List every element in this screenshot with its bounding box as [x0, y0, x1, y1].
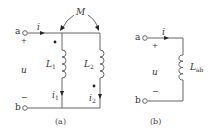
mutual-arrow-left [62, 15, 74, 29]
mutual-arrowhead-left [60, 25, 65, 31]
terminal-b-node [23, 106, 28, 111]
figure-b-caption: (b) [150, 117, 161, 126]
circuit-diagram [0, 0, 215, 139]
current-i-label-b: i [162, 28, 165, 37]
inductor-l1-label: L1 [46, 60, 56, 70]
polarity-dot-l2 [93, 85, 96, 88]
current-i-label: i [37, 23, 40, 32]
terminal-a-label: a [15, 27, 20, 36]
terminal-b-label-b: b [135, 96, 141, 105]
current-i2-label: i2 [89, 94, 96, 104]
terminal-b-node-b [143, 99, 148, 104]
terminal-b-label: b [15, 103, 21, 112]
terminal-a-label-b: a [135, 33, 140, 42]
polarity-dot-l1 [54, 41, 57, 44]
inductor-lab-label: Lab [190, 63, 203, 73]
mutual-m-label: M [76, 8, 85, 17]
minus-sign-b: − [152, 88, 159, 96]
terminal-a-node-b [143, 36, 148, 41]
inductor-l2-label: L2 [84, 60, 94, 70]
current-i1-label: i1 [52, 91, 59, 101]
inductor-lab-coil [179, 55, 183, 80]
minus-sign: − [21, 94, 28, 102]
current-i-arrow [40, 31, 45, 35]
voltage-u-label-b: u [152, 68, 158, 77]
inductor-l2-coil [100, 50, 104, 78]
plus-sign-b: + [152, 43, 158, 50]
figure-a-caption: (a) [55, 117, 66, 126]
voltage-u-label: u [21, 66, 27, 75]
current-i2-arrow [98, 94, 102, 99]
terminal-a-node [23, 31, 28, 36]
plus-sign: + [21, 38, 27, 45]
current-i1-arrow [60, 91, 64, 96]
inductor-l1-coil [62, 50, 66, 78]
